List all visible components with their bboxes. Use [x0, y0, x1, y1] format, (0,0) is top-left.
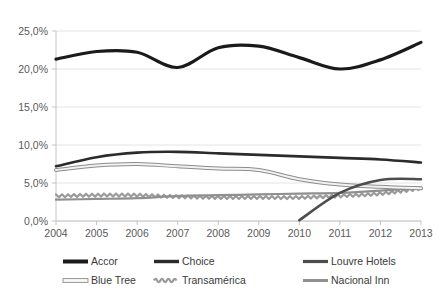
x-axis [56, 221, 421, 225]
y-tick-label: 25,0% [18, 25, 48, 37]
series-accor [56, 42, 421, 69]
y-tick-label: 10,0% [18, 139, 48, 151]
legend-item-blue-tree[interactable]: Blue Tree [0, 275, 145, 286]
x-tick-label: 2013 [409, 227, 433, 239]
chart-svg: 0,0%5,0%10,0%15,0%20,0%25,0% 20042005200… [0, 0, 440, 248]
transamerica-line-swatch [153, 275, 180, 286]
accor-line-swatch [62, 256, 89, 267]
legend-item-choice[interactable]: Choice [145, 256, 290, 267]
y-tick-label: 15,0% [18, 101, 48, 113]
y-tick-label: 20,0% [18, 63, 48, 75]
blue-tree-line-swatch [62, 275, 89, 286]
chart-legend: Accor Choice Louvre Hotels Blue Tree [0, 249, 440, 298]
legend-item-nacional-inn[interactable]: Nacional Inn [290, 275, 440, 286]
y-tick-label: 5,0% [24, 177, 48, 189]
nacional-inn-line-swatch [302, 275, 329, 286]
legend-row-2: Blue Tree Transamérica Nacional Inn [0, 271, 440, 290]
legend-item-louvre-hotels[interactable]: Louvre Hotels [290, 256, 440, 267]
y-tick-label: 0,0% [24, 215, 48, 227]
series-line [56, 42, 421, 69]
series-line [56, 188, 419, 199]
x-tick-label: 2011 [329, 227, 352, 239]
legend-item-accor[interactable]: Accor [0, 256, 145, 267]
x-tick-label: 2012 [369, 227, 393, 239]
louvre-hotels-line-swatch [302, 256, 329, 267]
x-tick-label: 2010 [288, 227, 312, 239]
series-transam-rica [56, 188, 419, 199]
legend-row-1: Accor Choice Louvre Hotels [0, 252, 440, 271]
legend-item-transamerica[interactable]: Transamérica [145, 275, 290, 286]
legend-label-accor: Accor [91, 256, 118, 267]
series-louvre-hotels [299, 179, 421, 220]
legend-label-nacional-inn: Nacional Inn [331, 275, 389, 286]
x-tick-label: 2005 [85, 227, 109, 239]
x-tick-label: 2006 [125, 227, 149, 239]
choice-line-swatch [153, 256, 180, 267]
y-tick-labels: 0,0%5,0%10,0%15,0%20,0%25,0% [18, 25, 48, 227]
legend-label-blue-tree: Blue Tree [91, 275, 136, 286]
series-blue-tree [56, 164, 421, 188]
legend-label-transamerica: Transamérica [182, 275, 246, 286]
x-tick-label: 2008 [207, 227, 231, 239]
x-tick-label: 2007 [166, 227, 190, 239]
plot-area: 0,0%5,0%10,0%15,0%20,0%25,0% 20042005200… [0, 0, 440, 248]
x-tick-label: 2009 [247, 227, 271, 239]
x-tick-labels: 2004200520062007200820092010201120122013 [44, 227, 433, 239]
legend-label-choice: Choice [182, 256, 215, 267]
series-line [299, 179, 421, 220]
legend-label-louvre-hotels: Louvre Hotels [331, 256, 396, 267]
x-tick-label: 2004 [44, 227, 68, 239]
line-chart: 0,0%5,0%10,0%15,0%20,0%25,0% 20042005200… [0, 0, 440, 298]
series-line-outline [56, 164, 421, 188]
